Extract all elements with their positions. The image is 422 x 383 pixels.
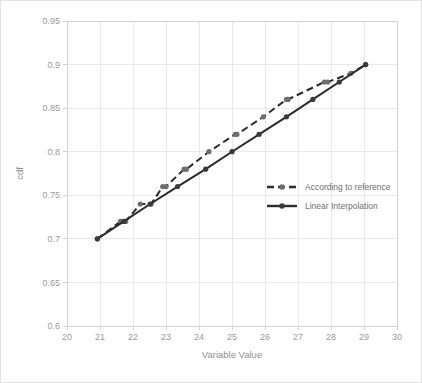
x-tick-label: 27: [293, 332, 303, 342]
x-tick-label: 25: [227, 332, 237, 342]
legend-label: Linear Interpolation: [305, 201, 378, 211]
data-point-marker: [121, 219, 126, 224]
y-tick-label: 0.9: [47, 60, 60, 70]
x-tick-labels-group: 2021222324252627282930: [62, 326, 402, 342]
y-tick-label: 0.95: [42, 16, 60, 26]
x-tick-label: 26: [260, 332, 270, 342]
y-tick-labels-group: 0.60.650.70.750.80.850.90.95: [42, 16, 67, 331]
data-point-marker: [286, 97, 291, 102]
data-point-marker: [95, 236, 100, 241]
x-tick-label: 24: [194, 332, 204, 342]
legend: According to referenceLinear Interpolati…: [267, 182, 391, 211]
y-tick-label: 0.8: [47, 147, 60, 157]
legend-swatch-marker: [279, 184, 285, 190]
cdf-line-chart: 0.60.650.70.750.80.850.90.95202122232425…: [1, 1, 422, 383]
x-tick-label: 29: [359, 332, 369, 342]
data-point-marker: [184, 167, 189, 172]
data-point-marker: [203, 167, 208, 172]
x-axis-title: Variable Value: [202, 349, 262, 360]
y-tick-label: 0.85: [42, 103, 60, 113]
y-tick-label: 0.75: [42, 190, 60, 200]
data-point-marker: [234, 132, 239, 137]
data-point-marker: [325, 79, 330, 84]
data-point-marker: [337, 79, 342, 84]
y-tick-label: 0.65: [42, 278, 60, 288]
data-point-marker: [256, 132, 261, 137]
x-tick-label: 20: [62, 332, 72, 342]
data-point-marker: [261, 114, 266, 119]
data-point-marker: [138, 201, 143, 206]
data-point-marker: [229, 149, 234, 154]
data-point-marker: [284, 114, 289, 119]
x-tick-label: 23: [161, 332, 171, 342]
data-point-marker: [363, 62, 368, 67]
legend-swatch-marker: [279, 203, 285, 209]
legend-label: According to reference: [305, 182, 391, 192]
y-tick-label: 0.6: [47, 321, 60, 331]
data-point-marker: [175, 184, 180, 189]
x-tick-label: 30: [392, 332, 402, 342]
chart-container: 0.60.650.70.750.80.850.90.95202122232425…: [0, 0, 422, 383]
data-point-marker: [310, 97, 315, 102]
y-tick-label: 0.7: [47, 234, 60, 244]
x-tick-label: 21: [95, 332, 105, 342]
gridlines-group: [67, 21, 397, 326]
x-tick-label: 28: [326, 332, 336, 342]
data-point-marker: [163, 184, 168, 189]
data-point-marker: [206, 149, 211, 154]
legend-item[interactable]: Linear Interpolation: [267, 201, 378, 211]
y-axis-title: cdf: [14, 167, 25, 180]
data-point-marker: [148, 201, 153, 206]
x-tick-label: 22: [128, 332, 138, 342]
legend-item[interactable]: According to reference: [267, 182, 391, 192]
